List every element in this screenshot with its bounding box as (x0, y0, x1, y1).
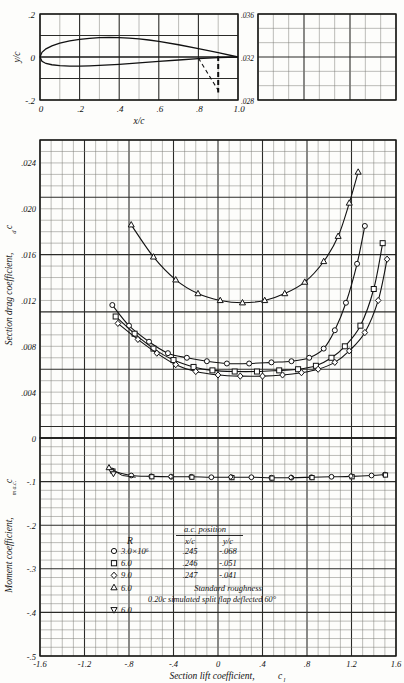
profile-xtick-1: .2 (77, 104, 84, 114)
drag-y-axis-label-symbol: c (4, 224, 14, 229)
profile-xtick-2: .4 (117, 104, 124, 114)
legend-column-header-yc: y/c (222, 536, 233, 546)
aux-ytick-0: .036 (241, 11, 254, 20)
x-axis-tick-0: -1.6 (33, 659, 47, 669)
legend-row-yc-2: -.041 (219, 570, 237, 580)
x-axis-tick-6: .8 (304, 659, 311, 669)
drag-datapoint-circle-4 (184, 355, 189, 360)
drag-y-axis-label: Section drag coefficient, (4, 253, 14, 346)
drag-datapoint-square-13 (358, 323, 363, 328)
legend-row-R-3: 6.0 (121, 583, 132, 593)
legend-row-xc-2: .247 (183, 570, 199, 580)
drag-series-diamond (115, 256, 390, 379)
drag-datapoint-square-15 (380, 241, 385, 246)
drag-datapoint-square-14 (371, 287, 376, 292)
legend-symbol-square-1 (111, 561, 116, 566)
moment-datapoint-square-2 (150, 475, 154, 479)
legend-column-header-R: R (126, 536, 133, 546)
drag-datapoint-circle-13 (343, 300, 348, 305)
moment-ytick-2: -.3 (27, 564, 36, 574)
drag-datapoint-circle-3 (165, 351, 170, 356)
drag-ytick-1: .004 (21, 388, 37, 398)
legend-row-R-2: 9.0 (121, 570, 132, 580)
x-axis-tick-4: 0 (216, 659, 221, 669)
x-axis-tick-7: 1.2 (346, 659, 357, 669)
moment-grid (40, 438, 396, 656)
moment-ytick-3: -.4 (27, 608, 37, 618)
legend: a.c. positionRx/cy/c3.0×10⁶.245-.0686.0.… (111, 524, 277, 615)
moment-ytick-0: -.1 (27, 477, 36, 487)
drag-ytick-0: 0 (32, 434, 37, 444)
airfoil-data-figure: .20-.20.2.4.6.81.0y/cx/c.036.032.0280.00… (0, 0, 404, 683)
x-axis-tick-2: -.8 (124, 659, 134, 669)
legend-row-R-0: 3.0×10⁶ (120, 546, 149, 556)
moment-y-axis-label-subscript: m a.c. (11, 481, 17, 496)
legend-row-R-1: 6.0 (121, 558, 132, 568)
drag-datapoint-square-0 (113, 314, 118, 319)
moment-datapoint-7 (249, 475, 254, 480)
moment-series-circle (106, 465, 387, 481)
drag-ytick-2: .008 (21, 342, 37, 352)
drag-datapoint-triangle-12 (355, 169, 361, 174)
legend-row-yc-0: -.068 (219, 546, 237, 556)
moment-datapoint-square-8 (270, 476, 274, 480)
legend-row-xc-0: .245 (183, 546, 198, 556)
moment-datapoint-square-14 (383, 473, 387, 477)
profile-x-axis-label: x/c (132, 116, 145, 126)
drag-curve-triangle (131, 172, 358, 303)
drag-datapoint-diamond-7 (260, 373, 266, 379)
moment-datapoint-5 (209, 475, 214, 480)
figure-page: .20-.20.2.4.6.81.0y/cx/c.036.032.0280.00… (0, 0, 404, 683)
drag-datapoint-circle-6 (224, 361, 229, 366)
drag-y-axis-label-subscript: d (10, 230, 17, 234)
legend-symbol-triangle-3 (111, 584, 117, 590)
x-axis-tick-5: .4 (259, 659, 266, 669)
split-flap-deflected-line (198, 58, 218, 90)
drag-datapoint-diamond-5 (215, 372, 221, 378)
profile-xtick-4: .8 (196, 104, 203, 114)
drag-datapoint-square-8 (277, 368, 282, 373)
drag-datapoint-circle-15 (362, 223, 367, 228)
drag-datapoint-square-5 (210, 368, 215, 373)
drag-ytick-5: .020 (21, 204, 37, 214)
drag-datapoint-square-6 (232, 369, 237, 374)
x-axis-tick-3: -.4 (169, 659, 179, 669)
drag-datapoint-diamond-14 (375, 297, 381, 303)
x-axis-tick-8: 1.6 (391, 659, 402, 669)
drag-datapoint-circle-5 (204, 359, 209, 364)
drag-datapoint-circle-0 (110, 303, 115, 308)
aux-ytick-2: .028 (241, 97, 254, 106)
aux-ytick-1: .032 (241, 54, 254, 63)
legend-row-yc-1: -.051 (219, 558, 237, 568)
legend-row-note-3: Standard roughness (194, 583, 262, 593)
drag-datapoint-circle-9 (289, 359, 294, 364)
drag-ytick-6: .024 (21, 158, 37, 168)
profile-y-axis-label: y/c (12, 51, 22, 64)
moment-datapoint-13 (369, 473, 374, 478)
x-axis-label-subscript: l (284, 676, 286, 683)
drag-datapoint-circle-12 (332, 328, 337, 333)
moment-datapoint-square-4 (190, 475, 194, 479)
drag-datapoint-square-12 (342, 344, 347, 349)
profile-xtick-0: 0 (39, 104, 44, 114)
legend-row-xc-1: .246 (183, 558, 199, 568)
moment-branch-datapoint-1 (111, 472, 117, 477)
moment-ytick-1: -.2 (27, 521, 37, 531)
legend-symbol-circle-0 (111, 548, 116, 553)
drag-curve-diamond (118, 259, 387, 376)
legend-flap-note: 0.20c simulated split flap deflected 60° (148, 595, 277, 604)
profile-ytick-1: 0 (31, 53, 36, 63)
x-axis-label: Section lift coefficient, (169, 671, 254, 681)
profile-xtick-3: .6 (156, 104, 163, 114)
legend-column-header-xc: x/c (184, 536, 195, 546)
x-axis-tick-1: -1.2 (78, 659, 92, 669)
drag-datapoint-circle-14 (355, 261, 360, 266)
moment-y-axis-label: Moment coefficient, (4, 517, 14, 593)
x-axis-label-symbol: c (278, 671, 283, 681)
drag-ytick-3: .012 (21, 296, 37, 306)
drag-datapoint-diamond-6 (238, 373, 244, 379)
aux-grid (258, 14, 396, 100)
drag-datapoint-square-7 (254, 369, 259, 374)
profile-ytick-0: .2 (28, 10, 35, 20)
drag-datapoint-circle-8 (269, 360, 274, 365)
